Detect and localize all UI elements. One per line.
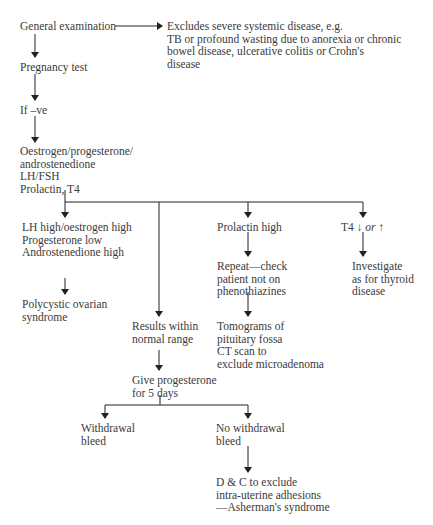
node-d-and-c: D & C to exclude intra-uterine adhesions…	[216, 476, 330, 514]
arrow-down-icon: ↓	[357, 221, 363, 233]
node-no-withdrawal-bleed: No withdrawal bleed	[216, 422, 285, 447]
node-tomograms: Tomograms of pituitary fossa CT scan to …	[217, 320, 324, 370]
node-hormone-tests: Oestrogen/progesterone/ androstenedione …	[20, 145, 133, 195]
arrow-up-icon: ↑	[378, 221, 384, 233]
node-lh-high: LH high/oestrogen high Progesterone low …	[22, 221, 132, 259]
node-results-normal: Results within normal range	[132, 320, 198, 345]
node-t4-abnormal: T4 ↓ or ↑	[341, 221, 384, 234]
node-if-negative: If –ve	[20, 104, 47, 117]
node-repeat-check: Repeat—check patient not on phenothiazin…	[217, 260, 287, 298]
node-excludes-systemic-disease: Excludes severe systemic disease, e.g. T…	[167, 20, 401, 70]
node-pregnancy-test: Pregnancy test	[20, 61, 87, 74]
node-general-examination: General examination	[20, 20, 116, 33]
node-investigate-thyroid: Investigate as for thyroid disease	[352, 260, 414, 298]
node-polycystic-ovarian-syndrome: Polycystic ovarian syndrome	[22, 298, 107, 323]
node-withdrawal-bleed: Withdrawal bleed	[81, 422, 135, 447]
node-prolactin-high: Prolactin high	[217, 221, 282, 234]
node-give-progesterone: Give progesterone for 5 days	[132, 374, 217, 399]
